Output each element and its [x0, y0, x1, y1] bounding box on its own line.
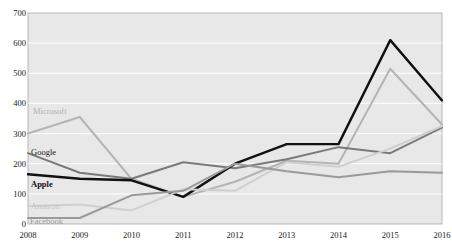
plot-area — [0, 0, 452, 246]
plot-background — [28, 13, 442, 224]
series-label-microsoft: Microsoft — [33, 107, 67, 116]
line-chart: 7006005004003002001000 20082009201020112… — [0, 0, 452, 246]
series-label-google: Google — [31, 148, 56, 157]
series-label-apple: Apple — [31, 180, 53, 189]
series-label-facebook: Facebook — [30, 217, 63, 226]
series-label-amazon: Amazon — [31, 202, 60, 211]
